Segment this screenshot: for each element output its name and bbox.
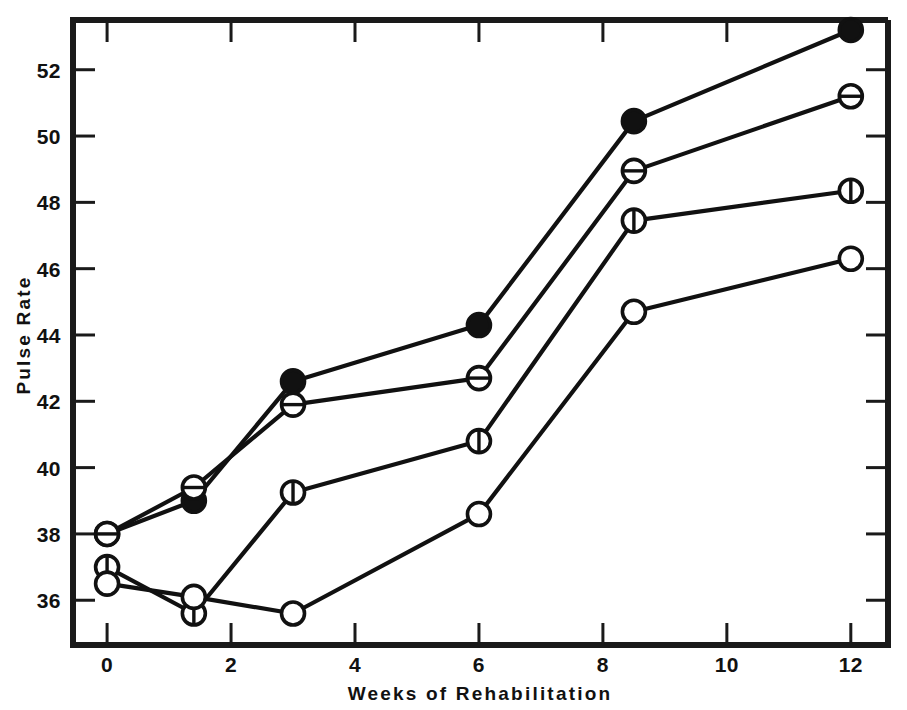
data-point-marker bbox=[467, 367, 490, 390]
y-tick-label: 48 bbox=[37, 191, 61, 214]
data-point-marker bbox=[839, 85, 862, 108]
y-axis-title: Pulse Rate bbox=[13, 275, 34, 394]
open-circle-icon bbox=[622, 300, 645, 323]
data-point-marker bbox=[467, 503, 490, 526]
x-tick-label: 8 bbox=[597, 653, 609, 676]
data-point-marker bbox=[282, 481, 305, 504]
filled-circle-icon bbox=[839, 18, 862, 41]
open-circle-icon bbox=[282, 602, 305, 625]
data-point-marker bbox=[467, 430, 490, 453]
data-point-marker bbox=[839, 18, 862, 41]
open-circle-icon bbox=[839, 247, 862, 270]
x-axis-title: Weeks of Rehabilitation bbox=[348, 683, 613, 704]
open-circle-icon bbox=[182, 585, 205, 608]
data-point-marker bbox=[622, 159, 645, 182]
data-point-marker bbox=[282, 393, 305, 416]
y-tick-label: 46 bbox=[37, 258, 61, 281]
x-tick-label: 2 bbox=[225, 653, 237, 676]
data-point-marker bbox=[182, 476, 205, 499]
x-tick-label: 10 bbox=[715, 653, 739, 676]
y-tick-label: 40 bbox=[37, 457, 61, 480]
open-circle-icon bbox=[467, 503, 490, 526]
data-point-marker bbox=[282, 602, 305, 625]
data-point-marker bbox=[839, 247, 862, 270]
y-tick-label: 44 bbox=[37, 324, 61, 347]
data-point-marker bbox=[622, 209, 645, 232]
data-point-marker bbox=[622, 110, 645, 133]
y-tick-label: 38 bbox=[37, 523, 61, 546]
chart-background bbox=[0, 0, 907, 710]
y-tick-label: 50 bbox=[37, 125, 61, 148]
data-point-marker bbox=[96, 572, 119, 595]
y-tick-label: 52 bbox=[37, 59, 61, 82]
filled-circle-icon bbox=[622, 110, 645, 133]
x-tick-label: 6 bbox=[473, 653, 485, 676]
data-point-marker bbox=[467, 314, 490, 337]
filled-circle-icon bbox=[282, 370, 305, 393]
x-tick-label: 0 bbox=[101, 653, 113, 676]
chart-figure: 363840424446485052 024681012 Weeks of Re… bbox=[0, 0, 907, 710]
x-tick-label: 12 bbox=[839, 653, 863, 676]
data-point-marker bbox=[96, 522, 119, 545]
x-tick-label: 4 bbox=[349, 653, 361, 676]
data-point-marker bbox=[622, 300, 645, 323]
data-point-marker bbox=[182, 585, 205, 608]
line-chart: 363840424446485052 024681012 Weeks of Re… bbox=[0, 0, 907, 710]
y-tick-label: 36 bbox=[37, 589, 61, 612]
data-point-marker bbox=[282, 370, 305, 393]
open-circle-icon bbox=[96, 572, 119, 595]
filled-circle-icon bbox=[467, 314, 490, 337]
data-point-marker bbox=[839, 179, 862, 202]
y-tick-label: 42 bbox=[37, 390, 61, 413]
